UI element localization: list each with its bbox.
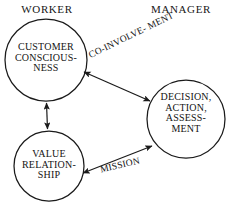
node-label-customer-consciousness: CUSTOMER CONSCIOUS- NESS — [6, 42, 86, 74]
diagram-canvas: WORKER MANAGER CUSTOMER CONSCIOUS- NESS … — [0, 0, 228, 210]
node-label-line: VALUE — [10, 149, 88, 160]
node-label-line: MENT — [148, 124, 224, 135]
edge-worker-internal-link — [47, 103, 48, 129]
node-label-decision-action-assessment: DECISION, ACTION, ASSESS- MENT — [148, 92, 224, 134]
node-label-line: NESS — [6, 63, 86, 74]
node-label-line: SHIP — [10, 170, 88, 181]
node-label-line: DECISION, — [148, 92, 224, 103]
column-header-manager: MANAGER — [134, 3, 228, 15]
column-header-worker: WORKER — [0, 3, 94, 15]
node-label-line: CUSTOMER — [6, 42, 86, 53]
node-label-value-relationship: VALUE RELATION- SHIP — [10, 149, 88, 181]
edge-co-involvement — [84, 72, 150, 101]
